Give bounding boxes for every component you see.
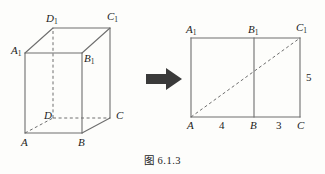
net-label-B: B	[250, 120, 257, 131]
net-label-B1: B1	[248, 24, 258, 35]
net-diagram	[191, 38, 300, 117]
net-label-A: A	[187, 120, 194, 131]
figure-container: D1 C1 A1 B1 D C A B A1 B1 C1 A B C 4 3 5…	[0, 0, 325, 174]
cuboid-label-D1: D1	[46, 13, 58, 24]
net-label-C1-subscript: 1	[303, 26, 307, 35]
cuboid-diagram	[25, 28, 110, 133]
cuboid-label-B: B	[78, 137, 85, 148]
figure-svg	[0, 0, 325, 174]
arrow-right-icon	[146, 68, 182, 90]
edge-B-C	[82, 118, 110, 133]
cuboid-label-B1-subscript: 1	[91, 57, 95, 66]
cuboid-label-C1: C1	[107, 11, 118, 22]
cuboid-label-C1-subscript: 1	[114, 15, 118, 24]
cuboid-label-D: D	[44, 110, 52, 121]
net-label-C: C	[297, 120, 304, 131]
cuboid-label-D1-subscript: 1	[54, 17, 58, 26]
net-label-C1: C1	[296, 22, 307, 33]
cuboid-label-B1: B1	[84, 53, 94, 64]
edge-D1-A1	[25, 28, 53, 53]
net-label-B1-subscript: 1	[255, 28, 259, 37]
cuboid-solid-edges	[25, 28, 110, 133]
net-dashed-edges	[191, 38, 300, 117]
net-measure-CC1: 5	[306, 72, 312, 83]
cuboid-label-A1-subscript: 1	[18, 49, 22, 58]
cuboid-label-C: C	[116, 110, 123, 121]
cuboid-hidden-edges	[25, 28, 110, 133]
net-measure-BC: 3	[276, 120, 282, 131]
figure-caption: 图 6.1.3	[0, 152, 325, 167]
edge-B1-C1	[82, 28, 110, 53]
net-diagonal-A-C1	[191, 38, 300, 117]
cuboid-label-A1: A1	[11, 45, 21, 56]
transform-arrow-icon	[146, 68, 182, 90]
net-label-A1-subscript: 1	[193, 28, 197, 37]
cuboid-label-A: A	[21, 137, 28, 148]
net-label-A1: A1	[186, 24, 196, 35]
net-measure-AB: 4	[219, 120, 225, 131]
